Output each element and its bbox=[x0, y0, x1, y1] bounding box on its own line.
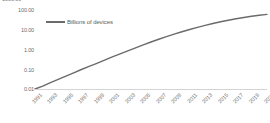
x-axis-tick-labels: 1991199319951997199920012003200520072009… bbox=[35, 90, 270, 123]
x-tick-label: 2011 bbox=[186, 92, 198, 104]
line-chart: 1000.00 100.00 10.00 1.00 0.10 0.01 1991… bbox=[0, 0, 270, 123]
x-tick-label: 2015 bbox=[216, 92, 228, 104]
x-tick-label: 2017 bbox=[232, 92, 244, 104]
x-tick-label: 1997 bbox=[77, 92, 89, 104]
legend-label: Billions of devices bbox=[67, 19, 113, 25]
x-tick-label: 2009 bbox=[170, 92, 182, 104]
x-tick-label: 2001 bbox=[108, 92, 120, 104]
legend: Billions of devices bbox=[46, 19, 113, 25]
x-tick-label: 1993 bbox=[46, 92, 58, 104]
x-tick-label: 2021 bbox=[263, 92, 270, 104]
x-tick-label: 1999 bbox=[93, 92, 105, 104]
x-tick-label: 2007 bbox=[154, 92, 166, 104]
x-tick-label: 2005 bbox=[139, 92, 151, 104]
x-tick-label: 1995 bbox=[62, 92, 74, 104]
series-billions-of-devices bbox=[35, 0, 267, 90]
x-tick-label: 2013 bbox=[201, 92, 213, 104]
plot-area bbox=[35, 0, 267, 90]
y-tick-label: 1.00 bbox=[24, 47, 34, 53]
y-tick-label: 0.10 bbox=[24, 67, 34, 73]
series-line bbox=[35, 14, 267, 89]
y-tick-label: 10.00 bbox=[21, 27, 34, 33]
x-tick-label: 2019 bbox=[247, 92, 259, 104]
y-axis-tick-labels: 100.00 10.00 1.00 0.10 0.01 bbox=[0, 0, 34, 123]
y-tick-label: 0.01 bbox=[24, 86, 34, 92]
y-tick-label: 100.00 bbox=[18, 7, 34, 13]
legend-line-marker bbox=[46, 21, 65, 23]
x-tick-label: 2003 bbox=[124, 92, 136, 104]
